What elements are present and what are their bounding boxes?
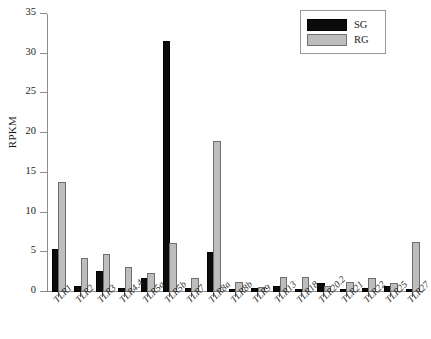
y-axis-tick-label: 25 [26, 85, 37, 96]
y-axis-tick: 30 [40, 53, 47, 54]
legend-item-rg: RG [307, 33, 379, 46]
y-axis-tick-label: 15 [26, 165, 37, 176]
y-axis-tick: 15 [40, 172, 47, 173]
y-axis-line [47, 14, 48, 292]
y-axis-tick: 35 [40, 13, 47, 14]
y-axis-tick: 25 [40, 92, 47, 93]
legend-label: SG [354, 19, 367, 30]
y-axis-tick-label: 5 [31, 244, 36, 255]
legend-swatch-rg [307, 34, 347, 46]
y-axis-tick-label: 20 [26, 125, 37, 136]
legend-swatch-sg [307, 19, 347, 31]
y-axis-tick-label: 0 [31, 284, 36, 295]
y-axis-tick: 20 [40, 132, 47, 133]
y-axis-tick: 0 [40, 291, 47, 292]
y-axis-title: RPKM [6, 102, 18, 162]
rpkm-bar-chart: RPKM 05101520253035 TLR1TLR2TLR3TLR4.4TL… [0, 0, 431, 339]
y-axis-tick-label: 10 [26, 205, 37, 216]
plot-area: 05101520253035 [47, 14, 423, 292]
legend-label: RG [354, 34, 369, 45]
y-axis-tick: 5 [40, 251, 47, 252]
y-axis-tick: 10 [40, 212, 47, 213]
bar-rg-tlr8a [213, 141, 221, 292]
y-axis-tick-label: 30 [26, 46, 37, 57]
legend-item-sg: SG [307, 18, 379, 31]
chart-legend: SGRG [300, 10, 386, 54]
y-axis-tick-label: 35 [26, 6, 37, 17]
bar-rg-tlr1 [58, 182, 66, 292]
